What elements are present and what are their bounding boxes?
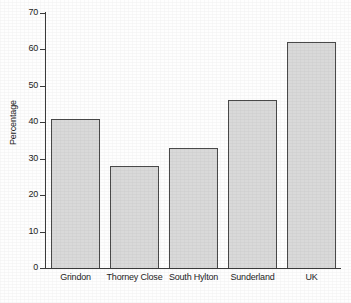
y-axis-tick-label: 20 [16,190,38,199]
y-axis-tick-label: 70 [16,8,38,17]
y-axis-tick-label: 30 [16,154,38,163]
y-axis-tick-label: 40 [16,117,38,126]
y-axis-tick-label: 0 [16,263,38,272]
bar-south-hylton [169,148,218,268]
bar-chart: Percentage 010203040506070 GrindonThorne… [0,0,351,303]
y-axis-tick-label: 60 [16,44,38,53]
plot-area [46,13,341,268]
y-axis-tick-label: 10 [16,227,38,236]
x-axis-label-uk: UK [262,272,351,282]
y-axis-tick [40,268,46,269]
bar-grindon [51,119,100,268]
x-axis-line [45,268,341,269]
y-axis-tick-label: 50 [16,81,38,90]
bar-uk [287,42,336,268]
bar-thorney-close [110,166,159,268]
bar-sunderland [228,100,277,268]
